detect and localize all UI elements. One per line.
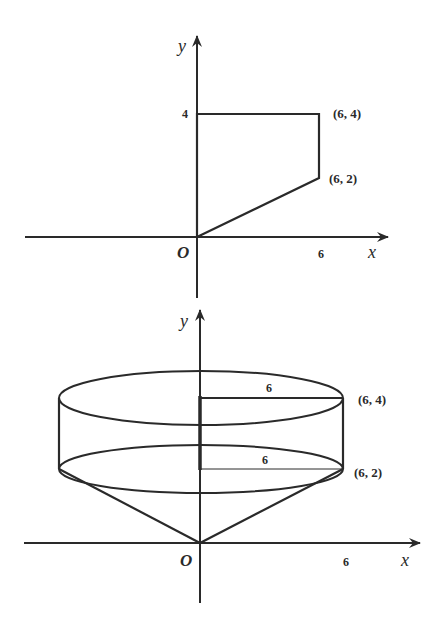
point-label-6-4: (6, 4) <box>333 106 361 121</box>
x-tick-6: 6 <box>343 555 349 569</box>
x-tick-6: 6 <box>318 247 324 261</box>
cone-left-side <box>59 469 200 543</box>
region-outline <box>197 114 319 237</box>
origin-label: O <box>180 551 192 570</box>
middle-radius-label: 6 <box>262 453 268 467</box>
top-radius-label: 6 <box>266 381 272 395</box>
origin-label: O <box>177 243 189 262</box>
x-axis-label: x <box>400 550 409 570</box>
point-label-6-4: (6, 4) <box>358 392 386 407</box>
point-label-6-2: (6, 2) <box>354 465 382 480</box>
y-axis-label: y <box>178 311 188 331</box>
diagram-canvas: y x O 4 6 (6, 4) (6, 2) y x O 6 6 6 ( <box>0 0 441 633</box>
y-tick-4: 4 <box>182 107 188 121</box>
point-label-6-2: (6, 2) <box>329 171 357 186</box>
y-axis-label: y <box>176 36 186 56</box>
cone-right-side <box>200 469 343 543</box>
x-axis-label: x <box>367 242 376 262</box>
figure-solid-of-revolution: y x O 6 6 6 (6, 4) (6, 2) <box>24 310 420 603</box>
figure-region-2d: y x O 4 6 (6, 4) (6, 2) <box>25 36 388 298</box>
